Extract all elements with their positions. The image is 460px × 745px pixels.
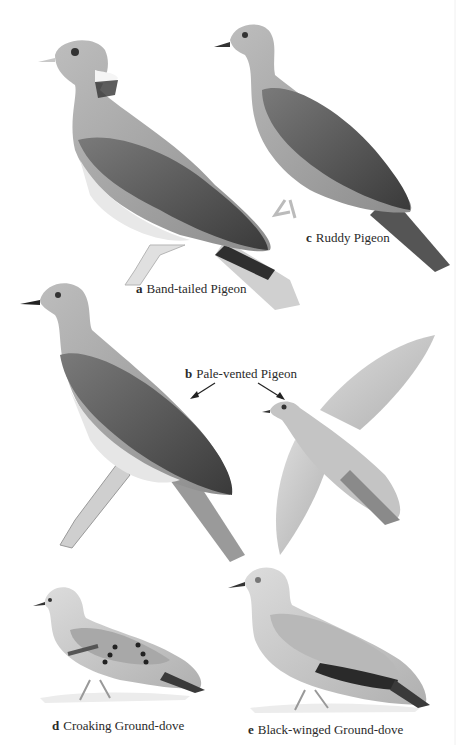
label-letter: d [52,718,59,733]
label-c: cRuddy Pigeon [306,230,390,246]
label-b: bPale-vented Pigeon [185,366,297,382]
pointer-arrows [190,383,285,400]
label-letter: c [306,230,312,245]
label-d: dCroaking Ground-dove [52,718,184,734]
pale-vented-pigeon-perched-figure [20,283,245,562]
species-name: Pale-vented Pigeon [196,366,297,381]
croaking-ground-dove-figure [33,587,205,703]
label-letter: b [185,366,192,381]
label-letter: e [248,722,254,737]
species-name: Ruddy Pigeon [316,230,390,245]
species-name: Black-winged Ground-dove [258,722,404,737]
species-name: Band-tailed Pigeon [147,281,247,296]
species-name: Croaking Ground-dove [63,718,184,733]
label-letter: a [136,281,143,296]
label-e: eBlack-winged Ground-dove [248,722,403,738]
label-a: aBand-tailed Pigeon [136,281,247,297]
illustration-plate: aBand-tailed Pigeon cRuddy Pigeon bPale-… [0,0,460,745]
black-winged-ground-dove-figure [228,567,430,713]
